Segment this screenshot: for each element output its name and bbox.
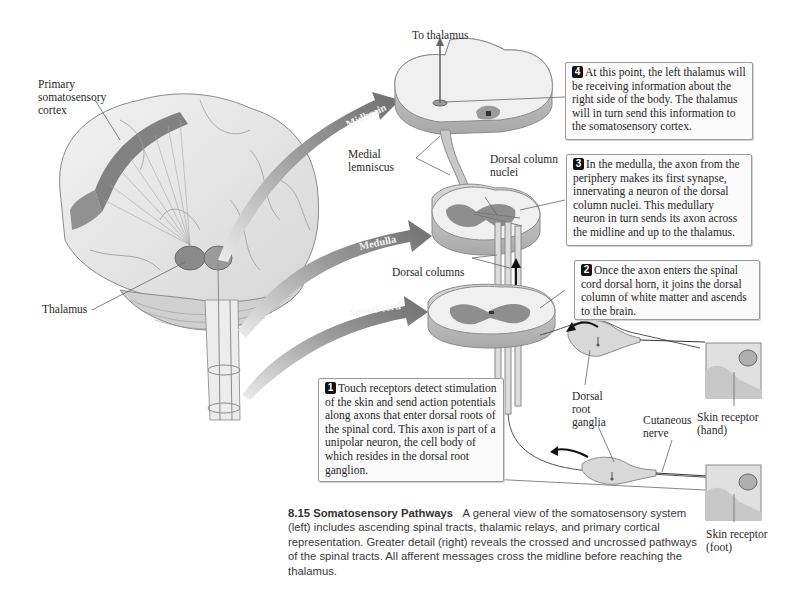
step-number-badge: 4 xyxy=(572,66,583,78)
step-text: At this point, the left thalamus will be… xyxy=(572,66,746,132)
skin-receptor-hand-illustration xyxy=(706,343,761,398)
step-box-1: 1Touch receptors detect stimulation of t… xyxy=(318,378,504,482)
label-primary-somatosensory-cortex: Primary somatosensory cortex xyxy=(38,78,106,117)
step-box-4: 4At this point, the left thalamus will b… xyxy=(565,62,753,140)
step-text: Touch receptors detect stimulation of th… xyxy=(325,382,497,476)
spinal-cord-section xyxy=(428,284,555,348)
step-number-badge: 1 xyxy=(325,382,336,394)
label-dorsal-root-ganglia: Dorsal root ganglia xyxy=(572,390,606,429)
figure-caption: 8.15 Somatosensory Pathways A general vi… xyxy=(288,506,708,578)
medulla-section xyxy=(432,184,540,255)
step-text: Once the axon enters the spinal cord dor… xyxy=(581,264,747,317)
figure-number: 8.15 xyxy=(288,507,310,519)
step-text: In the medulla, the axon from the periph… xyxy=(573,158,740,238)
label-cutaneous-nerve: Cutaneous nerve xyxy=(643,414,692,440)
label-to-thalamus: To thalamus xyxy=(412,29,468,42)
step-number-badge: 2 xyxy=(581,264,592,276)
skin-receptor-foot-illustration xyxy=(706,465,761,520)
label-thalamus: Thalamus xyxy=(42,303,87,316)
step-box-3: 3In the medulla, the axon from the perip… xyxy=(566,154,752,246)
label-dorsal-column-nuclei: Dorsal column nuclei xyxy=(490,153,558,179)
figure-title: Somatosensory Pathways xyxy=(313,507,453,519)
label-skin-receptor-foot: Skin receptor (foot) xyxy=(706,528,768,554)
label-medial-lemniscus: Medial lemniscus xyxy=(348,148,394,174)
midbrain-section xyxy=(395,37,553,134)
peripheral-nerves xyxy=(508,320,720,485)
label-dorsal-columns: Dorsal columns xyxy=(392,266,465,279)
step-number-badge: 3 xyxy=(573,158,584,170)
step-box-2: 2Once the axon enters the spinal cord do… xyxy=(574,260,760,320)
label-skin-receptor-hand: Skin receptor (hand) xyxy=(697,411,759,437)
